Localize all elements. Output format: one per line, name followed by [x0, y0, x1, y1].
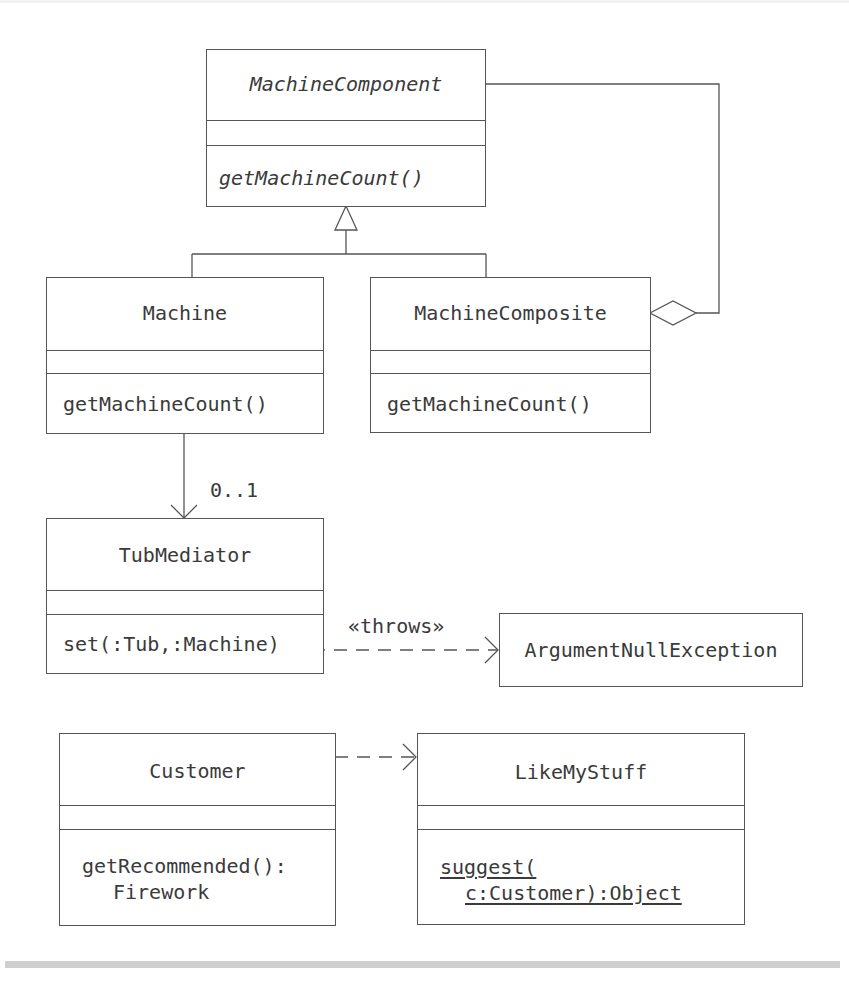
throws-stereotype-label: «throws»: [348, 614, 444, 638]
operation: set(:Tub,:Machine): [63, 632, 280, 656]
class-argument-null-exception[interactable]: ArgumentNullException: [499, 613, 803, 687]
class-customer[interactable]: Customer getRecommended(): Firework: [59, 733, 336, 926]
operations-divider: [207, 145, 485, 146]
operation: getRecommended():: [82, 854, 287, 878]
static-operation: suggest(: [440, 855, 536, 879]
operations-divider: [371, 373, 650, 374]
association-connector: [171, 433, 197, 518]
static-operation-params: c:Customer):Object: [465, 881, 682, 905]
operations-divider: [60, 829, 335, 830]
class-machine-component[interactable]: MachineComponent getMachineCount(): [206, 49, 486, 207]
operation: getMachineCount(): [387, 392, 592, 416]
operation-return-type: Firework: [113, 880, 209, 904]
class-like-my-stuff[interactable]: LikeMyStuff suggest( c:Customer):Object: [417, 733, 745, 925]
class-name: Customer: [60, 759, 335, 783]
class-machine[interactable]: Machine getMachineCount(): [46, 277, 324, 434]
operations-divider: [418, 829, 744, 830]
class-tub-mediator[interactable]: TubMediator set(:Tub,:Machine): [46, 518, 324, 674]
class-name: MachineComposite: [371, 301, 650, 325]
attributes-divider: [60, 805, 335, 806]
footer-rule: [5, 961, 840, 968]
operation: getMachineCount(): [219, 166, 424, 190]
class-machine-composite[interactable]: MachineComposite getMachineCount(): [370, 277, 651, 433]
operations-divider: [47, 614, 323, 615]
class-name: MachineComponent: [207, 72, 485, 96]
customer-dependency-connector: [335, 744, 416, 770]
attributes-divider: [371, 350, 650, 351]
attributes-divider: [47, 590, 323, 591]
attributes-divider: [207, 120, 485, 121]
operation: getMachineCount(): [63, 392, 268, 416]
class-name: LikeMyStuff: [418, 760, 744, 784]
attributes-divider: [418, 805, 744, 806]
generalization-triangle-icon: [335, 206, 357, 230]
operations-divider: [47, 373, 323, 374]
class-name: ArgumentNullException: [500, 638, 802, 662]
class-name: Machine: [47, 301, 323, 325]
generalization-connector: [192, 206, 486, 277]
aggregation-diamond-icon: [650, 301, 696, 325]
attributes-divider: [47, 350, 323, 351]
class-name: TubMediator: [47, 543, 323, 567]
multiplicity-label: 0..1: [210, 478, 258, 502]
